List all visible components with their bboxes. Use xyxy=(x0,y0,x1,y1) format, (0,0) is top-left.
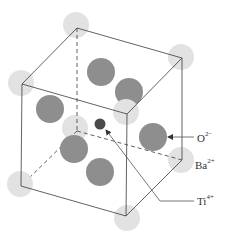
oxygen-atom-front-face xyxy=(60,135,88,163)
titanium-label: Ti4+ xyxy=(197,196,214,207)
oxygen-label: O2− xyxy=(197,133,212,144)
barium-atom-top-front-left xyxy=(8,70,34,96)
titanium-label-charge: 4+ xyxy=(206,193,213,201)
cube-edge xyxy=(126,114,127,216)
cube-edge xyxy=(21,186,126,216)
barium-atom-top-back-left xyxy=(63,12,89,38)
barium-label: Ba2+ xyxy=(195,160,215,171)
titanium-label-symbol: Ti xyxy=(197,195,206,207)
titanium-atom xyxy=(95,119,106,130)
barium-atom-top-front-right xyxy=(113,99,139,125)
barium-label-charge: 2+ xyxy=(207,157,214,165)
titanium-atom-center xyxy=(95,119,106,130)
barium-atom-top-back-right xyxy=(168,44,194,70)
cube-edge xyxy=(22,28,77,84)
cube-edge xyxy=(126,160,182,216)
unit-cell-drawing xyxy=(0,0,227,241)
oxygen-atom-top-face xyxy=(87,58,115,86)
perovskite-unit-cell-diagram: O2− Ba2+ Ti4+ xyxy=(0,0,227,241)
barium-label-symbol: Ba xyxy=(195,159,207,171)
oxygen-atom-left-face xyxy=(36,95,64,123)
cube-edge xyxy=(77,28,182,58)
cube-edge xyxy=(21,84,22,186)
barium-atom-bottom-front-left xyxy=(7,171,33,197)
oxygen-atom-bottom-face xyxy=(86,158,114,186)
barium-atom-bottom-front-right xyxy=(114,205,140,231)
oxygen-atom-right-face xyxy=(139,123,167,151)
oxygen-label-charge: 2− xyxy=(205,130,212,138)
oxygen-label-symbol: O xyxy=(197,132,205,144)
